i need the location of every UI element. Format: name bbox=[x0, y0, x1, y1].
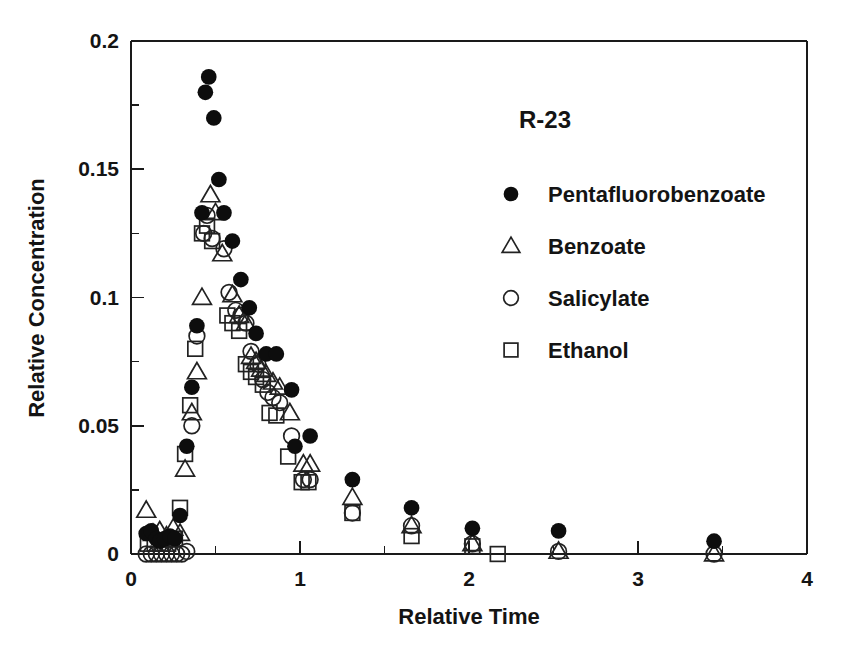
legend-marker-filled-circle bbox=[504, 187, 519, 202]
data-point-open-circle bbox=[345, 505, 361, 521]
x-axis-title: Relative Time bbox=[398, 604, 539, 629]
data-point-filled-circle bbox=[216, 205, 232, 221]
data-point-filled-circle bbox=[248, 326, 264, 342]
legend-title: R-23 bbox=[519, 106, 571, 133]
data-point-filled-circle bbox=[706, 533, 722, 549]
x-tick-label: 4 bbox=[801, 567, 813, 590]
data-point-open-circle bbox=[179, 544, 195, 560]
legend-marker-open-square bbox=[504, 343, 518, 357]
data-point-filled-circle bbox=[404, 500, 420, 516]
legend-label: Ethanol bbox=[548, 338, 629, 363]
legend-marker-open-circle bbox=[504, 291, 519, 306]
data-point-filled-circle bbox=[201, 69, 217, 85]
x-tick-label: 1 bbox=[294, 567, 306, 590]
data-point-filled-circle bbox=[206, 110, 222, 126]
data-point-filled-circle bbox=[211, 172, 227, 188]
data-point-filled-circle bbox=[287, 438, 303, 454]
data-point-filled-circle bbox=[172, 508, 188, 524]
data-point-filled-circle bbox=[198, 84, 214, 100]
data-point-filled-circle bbox=[194, 205, 210, 221]
y-tick-label: 0.05 bbox=[78, 414, 119, 437]
data-point-open-circle bbox=[272, 395, 288, 411]
chart-figure: 00.050.10.150.2 01234 Relative Time Rela… bbox=[0, 0, 847, 660]
y-tick-label: 0.2 bbox=[90, 29, 119, 52]
y-tick-label: 0 bbox=[107, 542, 119, 565]
data-point-filled-circle bbox=[465, 521, 481, 537]
data-point-filled-circle bbox=[233, 272, 249, 288]
data-point-filled-circle bbox=[225, 233, 241, 249]
y-tick-label: 0.1 bbox=[90, 286, 120, 309]
legend-label: Salicylate bbox=[548, 286, 650, 311]
data-point-open-circle bbox=[302, 472, 318, 488]
data-point-filled-circle bbox=[284, 382, 300, 398]
data-point-filled-circle bbox=[345, 472, 361, 488]
legend-label: Pentafluorobenzoate bbox=[548, 182, 766, 207]
data-point-filled-circle bbox=[551, 523, 567, 539]
x-tick-label: 0 bbox=[125, 567, 137, 590]
scatter-plot-svg: 00.050.10.150.2 01234 Relative Time Rela… bbox=[0, 0, 847, 660]
data-point-filled-circle bbox=[167, 531, 183, 547]
data-point-filled-circle bbox=[184, 379, 200, 395]
data-point-filled-circle bbox=[269, 346, 285, 362]
y-axis-title: Relative Concentration bbox=[24, 178, 49, 418]
data-point-open-square bbox=[490, 547, 505, 562]
data-point-filled-circle bbox=[302, 428, 318, 444]
data-point-filled-circle bbox=[179, 438, 195, 454]
x-tick-label: 2 bbox=[463, 567, 475, 590]
y-tick-label: 0.15 bbox=[78, 157, 119, 180]
data-point-filled-circle bbox=[241, 300, 257, 316]
x-tick-label: 3 bbox=[632, 567, 644, 590]
data-point-filled-circle bbox=[189, 318, 205, 334]
legend-label: Benzoate bbox=[548, 234, 646, 259]
